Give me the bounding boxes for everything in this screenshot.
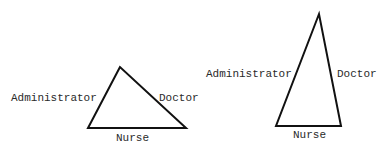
left-triangle-administrator-label: Administrator: [11, 92, 97, 104]
right-triangle-nurse-label: Nurse: [293, 129, 326, 141]
left-triangle-doctor-label: Doctor: [159, 92, 199, 104]
role-triangle-diagram: Administrator Doctor Nurse Administrator…: [0, 0, 386, 147]
right-triangle-group: Administrator Doctor Nurse: [206, 14, 377, 141]
left-triangle-group: Administrator Doctor Nurse: [11, 67, 199, 144]
right-triangle-doctor-label: Doctor: [337, 68, 377, 80]
right-triangle-administrator-label: Administrator: [206, 68, 292, 80]
left-triangle-nurse-label: Nurse: [116, 132, 149, 144]
